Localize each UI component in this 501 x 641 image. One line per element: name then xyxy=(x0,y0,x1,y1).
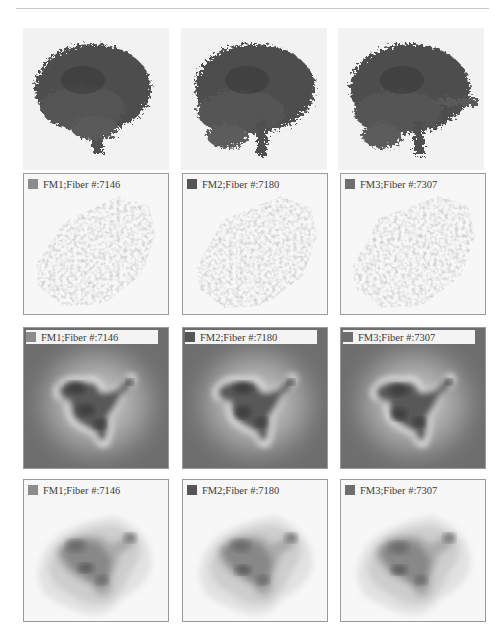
legend-swatch xyxy=(345,485,355,495)
legend-swatch xyxy=(187,179,197,189)
heatmap-panel-fm2: FM2;Fiber #:7180 xyxy=(182,327,328,469)
legend-label: FM3;Fiber #:7307 xyxy=(358,332,435,343)
density-heatmap xyxy=(341,328,486,469)
fiber-render-fm3 xyxy=(338,28,484,170)
legend-label: FM2;Fiber #:7180 xyxy=(200,332,277,343)
legend-swatch xyxy=(343,332,353,342)
legend-label: FM1;Fiber #:7146 xyxy=(43,179,120,190)
density-contour xyxy=(341,480,486,622)
legend-label: FM1;Fiber #:7146 xyxy=(41,332,118,343)
legend-label: FM2;Fiber #:7180 xyxy=(202,485,279,496)
legend: FM2;Fiber #:7180 xyxy=(187,177,279,191)
contour-panel-fm2: FM2;Fiber #:7180 xyxy=(182,479,328,622)
legend-swatch xyxy=(187,485,197,495)
legend: FM3;Fiber #:7307 xyxy=(343,330,475,344)
legend-swatch xyxy=(345,179,355,189)
scatter-panel-fm1: FM1;Fiber #:7146 xyxy=(23,173,169,315)
legend: FM2;Fiber #:7180 xyxy=(187,483,279,497)
legend-label: FM1;Fiber #:7146 xyxy=(43,485,120,496)
legend-label: FM2;Fiber #:7180 xyxy=(202,179,279,190)
legend: FM1;Fiber #:7146 xyxy=(26,330,158,344)
legend-label: FM3;Fiber #:7307 xyxy=(360,485,437,496)
density-heatmap xyxy=(183,328,328,469)
scatter-plot xyxy=(341,174,486,315)
contour-panel-fm3: FM3;Fiber #:7307 xyxy=(340,479,486,622)
legend: FM2;Fiber #:7180 xyxy=(185,330,317,344)
density-contour xyxy=(24,480,169,622)
brain-fiber-image xyxy=(338,28,484,170)
heatmap-panel-fm1: FM1;Fiber #:7146 xyxy=(23,327,169,469)
legend-swatch xyxy=(28,179,38,189)
legend: FM1;Fiber #:7146 xyxy=(28,483,120,497)
fiber-render-fm2 xyxy=(181,28,327,170)
legend: FM3;Fiber #:7307 xyxy=(345,483,437,497)
legend-label: FM3;Fiber #:7307 xyxy=(360,179,437,190)
scatter-panel-fm2: FM2;Fiber #:7180 xyxy=(182,173,328,315)
scatter-plot xyxy=(24,174,169,315)
fiber-render-fm1 xyxy=(23,28,169,170)
contour-panel-fm1: FM1;Fiber #:7146 xyxy=(23,479,169,622)
heatmap-panel-fm3: FM3;Fiber #:7307 xyxy=(340,327,486,469)
legend-swatch xyxy=(28,485,38,495)
scatter-plot xyxy=(183,174,328,315)
legend-swatch xyxy=(26,332,36,342)
density-contour xyxy=(183,480,328,622)
density-heatmap xyxy=(24,328,169,469)
legend: FM3;Fiber #:7307 xyxy=(345,177,437,191)
scatter-panel-fm3: FM3;Fiber #:7307 xyxy=(340,173,486,315)
brain-fiber-image xyxy=(181,28,327,170)
legend-swatch xyxy=(185,332,195,342)
legend: FM1;Fiber #:7146 xyxy=(28,177,120,191)
top-rule xyxy=(16,8,489,9)
brain-fiber-image xyxy=(23,28,169,170)
